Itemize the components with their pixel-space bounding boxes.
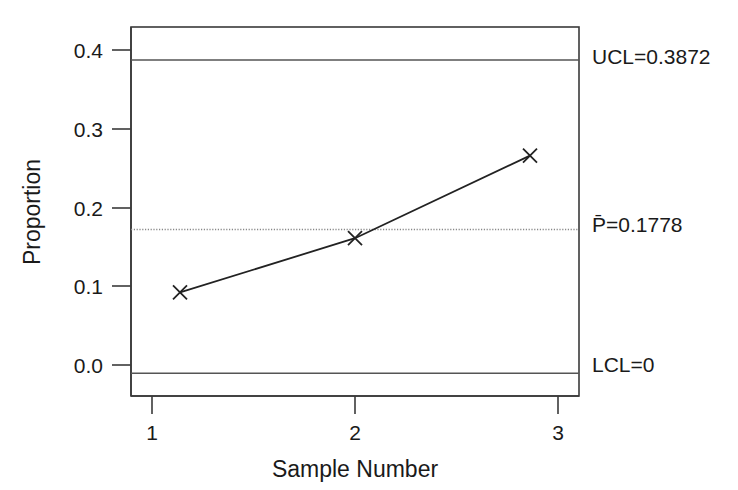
x-tick-label-3: 3 [552,421,564,444]
y-axis-title: Proportion [19,159,45,265]
control-chart-canvas: 0.4 0.3 0.2 0.1 0.0 Proportion 1 2 3 Sam… [0,0,738,490]
ucl-label: UCL=0.3872 [592,45,711,68]
y-tick-label-0.2: 0.2 [74,197,103,220]
y-tick-label-0.3: 0.3 [74,118,103,141]
center-line-label: P̄=0.1778 [592,213,683,236]
y-tick-label-0.1: 0.1 [74,275,103,298]
x-tick-label-1: 1 [146,421,158,444]
x-tick-label-2: 2 [349,421,361,444]
lcl-label: LCL=0 [592,353,654,376]
x-axis-title: Sample Number [272,456,439,482]
chart-background [0,0,738,490]
y-tick-label-0.0: 0.0 [74,354,103,377]
y-tick-label-0.4: 0.4 [74,39,104,62]
control-chart: 0.4 0.3 0.2 0.1 0.0 Proportion 1 2 3 Sam… [0,0,738,490]
